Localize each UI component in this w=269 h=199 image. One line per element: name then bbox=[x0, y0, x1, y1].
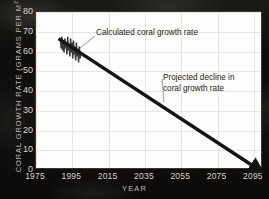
y-axis-title: CORAL GROWTH RATE (GRAMS PER M2) bbox=[13, 22, 24, 172]
annotation-calculated-coral-growth-rate: Calculated coral growth rate bbox=[96, 28, 198, 39]
gridline-vertical bbox=[72, 12, 73, 168]
y-axis-title-text: CORAL GROWTH RATE (GRAMS PER M bbox=[14, 4, 23, 172]
gridline-horizontal bbox=[36, 111, 261, 112]
x-tick-label: 2055 bbox=[170, 171, 190, 181]
gridline-vertical bbox=[36, 12, 37, 168]
gridline-vertical bbox=[254, 12, 255, 168]
annotation-projected-decline: Projected decline in coral growth rate bbox=[163, 73, 234, 94]
x-tick-label: 2095 bbox=[243, 171, 263, 181]
gridline-horizontal bbox=[36, 150, 261, 151]
x-tick-label: 2075 bbox=[207, 171, 227, 181]
y-axis-title-exponent: 2 bbox=[13, 0, 19, 4]
x-tick-label: 2035 bbox=[134, 171, 154, 181]
x-tick-label: 2015 bbox=[98, 171, 118, 181]
gridline-horizontal bbox=[36, 12, 261, 13]
chart-screenshot: 01020304050607080 1975199520152035205520… bbox=[0, 0, 269, 199]
gridline-horizontal bbox=[36, 131, 261, 132]
x-axis-title: YEAR bbox=[0, 184, 269, 193]
x-tick-label: 1995 bbox=[61, 171, 81, 181]
gridline-horizontal bbox=[36, 52, 261, 53]
x-tick-label: 1975 bbox=[25, 171, 45, 181]
